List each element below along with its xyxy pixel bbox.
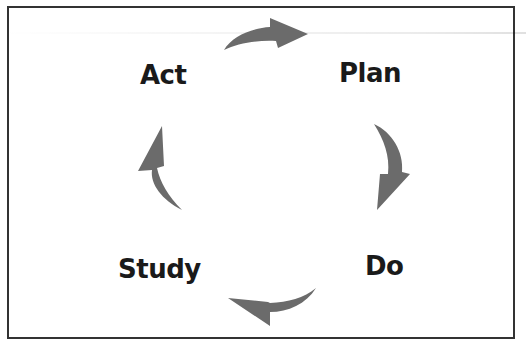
stage-label-plan: Plan xyxy=(339,60,401,86)
arrow-do-to-study-icon xyxy=(228,288,316,326)
arrow-plan-to-do-icon xyxy=(374,124,410,210)
arrow-study-to-act-icon xyxy=(138,126,182,210)
cycle-arrows xyxy=(0,0,526,343)
stage-label-do: Do xyxy=(365,253,403,279)
stage-label-act: Act xyxy=(140,62,186,88)
arrow-act-to-plan-icon xyxy=(224,18,308,50)
stage-label-study: Study xyxy=(118,256,201,282)
